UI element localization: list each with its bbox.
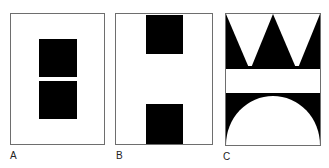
panel-a-label: A: [10, 150, 17, 161]
panel-a-bottom-square: [39, 81, 77, 119]
panel-b-bottom-square: [146, 104, 183, 144]
crown-left-triangle: [226, 14, 249, 68]
panel-a-top-square: [39, 39, 77, 77]
panel-b-top-square: [146, 15, 183, 54]
crown-center-triangle: [251, 14, 296, 68]
panel-c: [225, 13, 321, 146]
panel-c-shapes: [226, 14, 320, 145]
panel-c-label: C: [223, 151, 230, 162]
panel-a: [10, 13, 105, 145]
panel-b: [115, 13, 213, 145]
panel-b-label: B: [116, 150, 123, 161]
crown-right-triangle: [298, 14, 320, 68]
